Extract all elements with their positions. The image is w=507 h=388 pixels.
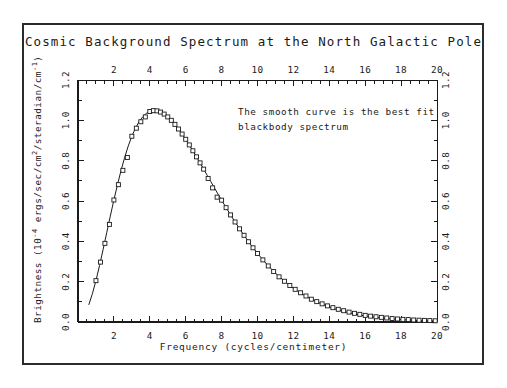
annotation-line-2: blackbody spectrum xyxy=(238,119,435,134)
data-point-marker xyxy=(229,213,233,217)
data-point-marker xyxy=(261,258,265,262)
blackbody-fit-curve xyxy=(89,111,437,321)
y-axis-title: Brightness (10-4 ergs/sec/cm2/steradian/… xyxy=(31,73,43,323)
data-point-marker xyxy=(417,318,421,322)
data-point-marker xyxy=(352,311,356,315)
data-point-marker xyxy=(304,294,308,298)
data-point-marker xyxy=(272,270,276,274)
data-point-marker xyxy=(94,279,98,283)
data-point-marker xyxy=(358,312,362,316)
curve-annotation: The smooth curve is the best fit blackbo… xyxy=(238,104,435,134)
data-point-marker xyxy=(125,155,129,159)
axis-tick-label: 2 xyxy=(111,64,117,75)
data-point-marker xyxy=(215,195,219,199)
data-point-marker xyxy=(220,198,224,202)
axis-tick-label: 1.0 xyxy=(60,111,71,129)
axis-tick-label: 1.0 xyxy=(440,111,451,129)
data-point-marker xyxy=(379,315,383,319)
data-point-marker xyxy=(206,176,210,180)
axis-tick-label: 14 xyxy=(323,330,335,341)
axis-tick-label: 18 xyxy=(395,330,407,341)
axis-tick-label: 10 xyxy=(252,64,264,75)
axis-tick-label: 0.2 xyxy=(440,273,451,291)
axis-tick-label: 4 xyxy=(147,64,153,75)
axis-tick-label: 1.2 xyxy=(60,71,71,89)
data-point-marker xyxy=(238,227,242,231)
axis-tick-label: 14 xyxy=(323,64,335,75)
data-point-marker xyxy=(233,220,237,224)
data-point-marker xyxy=(177,127,181,131)
data-point-marker xyxy=(331,306,335,310)
data-point-marker xyxy=(336,307,340,311)
data-point-marker xyxy=(342,309,346,313)
data-point-marker xyxy=(433,319,437,323)
data-point-marker xyxy=(315,300,319,304)
axis-tick-label: 16 xyxy=(359,330,371,341)
data-point-marker xyxy=(198,161,202,165)
axis-tick-label: 0.8 xyxy=(440,152,451,170)
axis-tick-label: 8 xyxy=(219,64,225,75)
data-point-marker xyxy=(130,134,134,138)
axis-tick-label: 2 xyxy=(111,330,117,341)
data-point-marker xyxy=(412,318,416,322)
data-point-marker xyxy=(320,302,324,306)
data-point-marker xyxy=(134,126,138,130)
data-point-marker xyxy=(191,149,195,153)
data-point-marker xyxy=(103,241,107,245)
data-point-marker xyxy=(211,186,215,190)
data-point-marker xyxy=(180,132,184,136)
data-point-marker xyxy=(121,168,125,172)
axis-tick-label: 0.0 xyxy=(440,313,451,331)
data-point-marker xyxy=(396,317,400,321)
x-axis-title: Frequency (cycles/centimeter) xyxy=(0,341,507,352)
axis-tick-label: 18 xyxy=(395,64,407,75)
axis-tick-label: 10 xyxy=(252,330,264,341)
data-point-marker xyxy=(266,264,270,268)
axis-tick-label: 12 xyxy=(287,64,299,75)
data-point-marker xyxy=(422,318,426,322)
data-point-marker xyxy=(98,260,102,264)
data-point-marker xyxy=(224,206,228,210)
plot-area: 224466881010121214141616181820200.00.00.… xyxy=(0,0,507,388)
data-point-marker xyxy=(143,115,147,119)
data-point-marker xyxy=(184,137,188,141)
axis-tick-label: 0.2 xyxy=(60,273,71,291)
data-point-marker xyxy=(173,122,177,126)
data-point-marker xyxy=(187,143,191,147)
data-point-marker xyxy=(309,297,313,301)
data-point-marker xyxy=(369,314,373,318)
data-point-marker xyxy=(247,240,251,244)
data-point-marker xyxy=(169,118,173,122)
axis-tick-label: 0.8 xyxy=(60,152,71,170)
data-point-marker xyxy=(428,319,432,323)
data-point-marker xyxy=(363,313,367,317)
data-point-marker xyxy=(390,317,394,321)
data-point-marker xyxy=(242,233,246,237)
axis-tick-label: 0.6 xyxy=(60,192,71,210)
axis-tick-label: 12 xyxy=(287,330,299,341)
data-point-marker xyxy=(112,198,116,202)
data-point-marker xyxy=(282,279,286,283)
data-point-marker xyxy=(299,291,303,295)
data-point-marker xyxy=(401,317,405,321)
figure-root: Cosmic Background Spectrum at the North … xyxy=(0,0,507,388)
data-point-marker xyxy=(288,284,292,288)
annotation-line-1: The smooth curve is the best fit xyxy=(238,104,435,119)
data-point-marker xyxy=(326,304,330,308)
data-point-marker xyxy=(194,155,198,159)
axis-tick-label: 8 xyxy=(219,330,225,341)
data-point-marker xyxy=(277,275,281,279)
axis-tick-label: 4 xyxy=(147,330,153,341)
axis-tick-label: 1.2 xyxy=(440,71,451,89)
data-point-marker xyxy=(116,183,120,187)
data-point-marker xyxy=(385,316,389,320)
data-point-marker xyxy=(139,120,143,124)
axis-tick-label: 0.4 xyxy=(440,232,451,250)
data-point-marker xyxy=(374,315,378,319)
data-point-marker xyxy=(406,318,410,322)
axis-tick-label: 6 xyxy=(183,330,189,341)
data-point-marker xyxy=(256,251,260,255)
data-point-marker xyxy=(107,222,111,226)
axis-tick-label: 16 xyxy=(359,64,371,75)
axis-tick-label: 0.0 xyxy=(60,313,71,331)
